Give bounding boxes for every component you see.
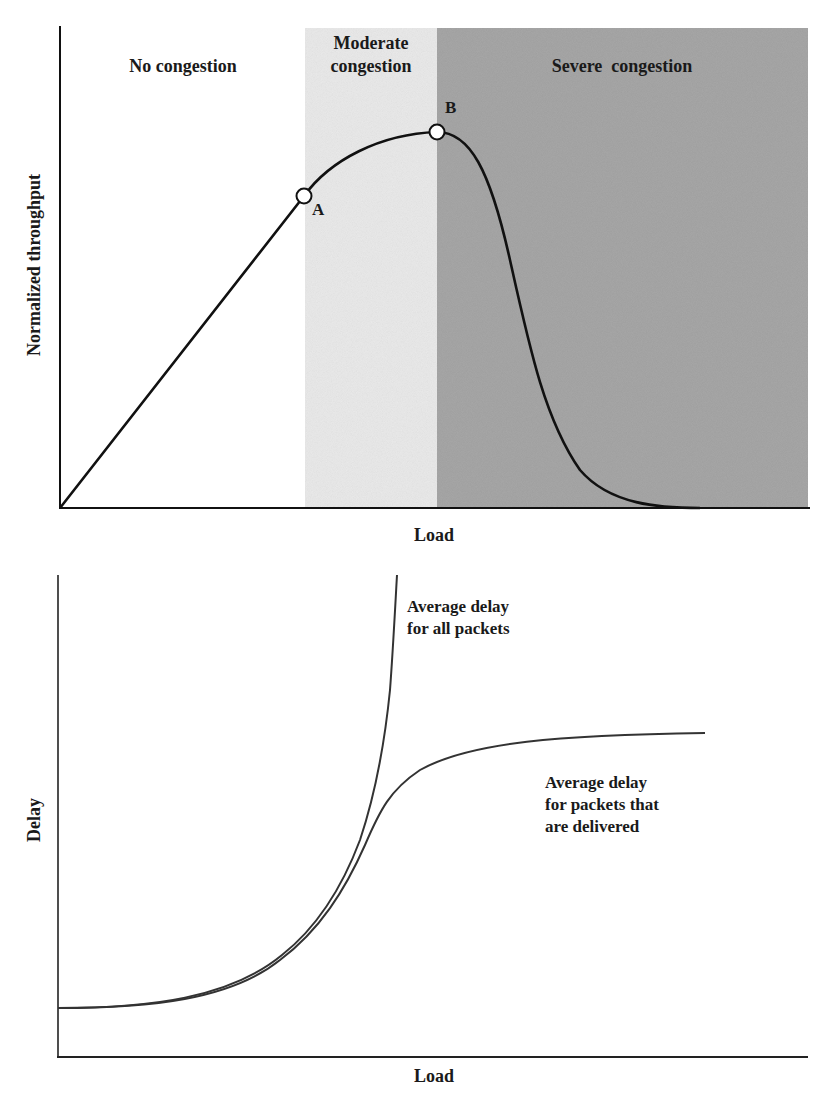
throughput-chart: A B No congestion Moderate congestion Se… [24, 26, 810, 545]
point-b-marker [430, 125, 445, 140]
throughput-x-axis-label: Load [414, 525, 454, 545]
all-packets-annotation-line1: Average delay [407, 597, 510, 616]
point-b-label: B [445, 98, 456, 117]
no-congestion-label: No congestion [129, 56, 237, 76]
severe-congestion-label: Severe congestion [552, 56, 693, 76]
delivered-annotation-line3: are delivered [545, 817, 640, 836]
point-a-label: A [312, 200, 325, 219]
moderate-congestion-label-line1: Moderate [334, 33, 409, 53]
delivered-annotation-line2: for packets that [545, 795, 659, 814]
point-a-marker [297, 189, 312, 204]
throughput-y-axis-label: Normalized throughput [24, 174, 44, 356]
delay-y-axis-label: Delay [24, 798, 44, 842]
delivered-annotation-line1: Average delay [545, 773, 648, 792]
all-packets-delay-curve [58, 575, 397, 1008]
all-packets-annotation-line2: for all packets [407, 619, 510, 638]
delay-chart: Average delay for all packets Average de… [24, 575, 808, 1086]
congestion-figure: A B No congestion Moderate congestion Se… [0, 0, 828, 1101]
delay-x-axis-label: Load [414, 1066, 454, 1086]
moderate-congestion-label-line2: congestion [331, 56, 412, 76]
